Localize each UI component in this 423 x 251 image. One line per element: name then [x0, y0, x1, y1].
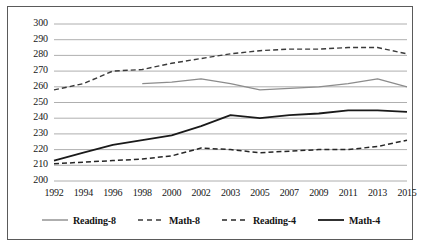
legend-label: Reading-8	[73, 215, 116, 226]
series-line-reading-4	[54, 140, 407, 164]
y-axis-tick-label: 280	[22, 48, 48, 59]
legend-swatch-icon	[138, 215, 164, 225]
y-axis-tick-label: 200	[22, 174, 48, 185]
legend-swatch-icon	[318, 215, 344, 225]
x-axis-tick-label: 2015	[390, 187, 423, 198]
legend-item-reading-8[interactable]: Reading-8	[42, 215, 116, 226]
y-axis-tick-label: 240	[22, 111, 48, 122]
y-axis-tick-label: 230	[22, 127, 48, 138]
legend-item-math-8[interactable]: Math-8	[138, 215, 200, 226]
chart-legend: Reading-8Math-8Reading-4Math-4	[8, 209, 414, 231]
chart-container: 2002102202302402502602702802903001992199…	[7, 6, 413, 240]
y-axis-tick-label: 250	[22, 96, 48, 107]
legend-swatch-icon	[222, 215, 248, 225]
y-axis-tick-label: 220	[22, 143, 48, 154]
legend-item-reading-4[interactable]: Reading-4	[222, 215, 296, 226]
legend-label: Math-4	[349, 215, 380, 226]
line-chart-svg	[8, 7, 414, 241]
y-axis-tick-label: 300	[22, 17, 48, 28]
plot-area: 2002102202302402502602702802903001992199…	[8, 7, 414, 241]
y-axis-tick-label: 210	[22, 158, 48, 169]
y-axis-tick-label: 270	[22, 64, 48, 75]
y-axis-tick-label: 260	[22, 80, 48, 91]
series-line-reading-8	[142, 79, 407, 90]
legend-label: Math-8	[169, 215, 200, 226]
y-axis-tick-label: 290	[22, 33, 48, 44]
legend-swatch-icon	[42, 215, 68, 225]
legend-item-math-4[interactable]: Math-4	[318, 215, 380, 226]
legend-label: Reading-4	[253, 215, 296, 226]
